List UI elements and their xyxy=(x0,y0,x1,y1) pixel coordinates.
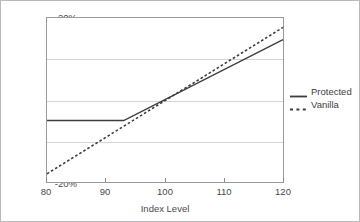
chart-legend: Protected Vanilla xyxy=(290,85,352,111)
xtick-mark-90 xyxy=(105,178,106,182)
series-line-protected xyxy=(47,40,283,121)
xtick-label-80: 80 xyxy=(26,187,66,197)
xtick-mark-100 xyxy=(165,178,166,182)
xtick-mark-110 xyxy=(224,178,225,182)
xtick-mark-80 xyxy=(46,178,47,182)
plot-area xyxy=(46,17,284,183)
legend-item-protected: Protected xyxy=(290,85,352,98)
series-line-vanilla xyxy=(47,27,283,173)
legend-label-vanilla: Vanilla xyxy=(311,99,339,110)
legend-swatch-solid-icon xyxy=(290,87,307,96)
xtick-label-90: 90 xyxy=(85,187,125,197)
x-axis-title: Index Level xyxy=(46,203,284,214)
xtick-mark-120 xyxy=(283,178,284,182)
series-plot xyxy=(47,18,283,182)
legend-label-protected: Protected xyxy=(311,86,352,97)
chart-figure: 20% 10% 0% -10% -20% 80 90 100 110 120 I… xyxy=(0,0,360,222)
xtick-label-120: 120 xyxy=(263,187,303,197)
xtick-label-100: 100 xyxy=(145,187,185,197)
legend-item-vanilla: Vanilla xyxy=(290,98,352,111)
xtick-label-110: 110 xyxy=(204,187,244,197)
legend-swatch-dotted-icon xyxy=(290,100,307,109)
